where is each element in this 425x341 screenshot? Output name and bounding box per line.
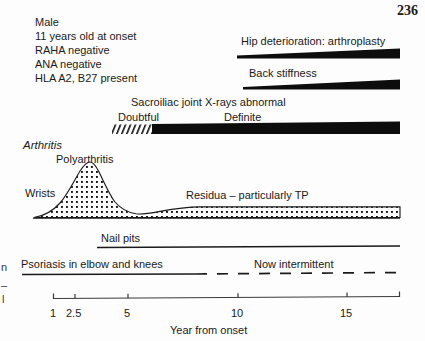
psoriasis-dashed-line (196, 273, 400, 275)
psoriasis-solid-line (22, 274, 196, 275)
arthritis-curve-area (34, 162, 400, 218)
figure-artwork (0, 0, 425, 341)
hip-deterioration-bar (237, 49, 400, 59)
sacroiliac-doubtful-bar (112, 125, 152, 135)
back-stiffness-bar (243, 80, 400, 90)
x-axis (53, 292, 400, 299)
sacroiliac-definite-bar (152, 122, 400, 135)
figure-container: 236 Male 11 years old at onset RAHA nega… (0, 0, 425, 341)
nail-pits-line (97, 246, 400, 248)
